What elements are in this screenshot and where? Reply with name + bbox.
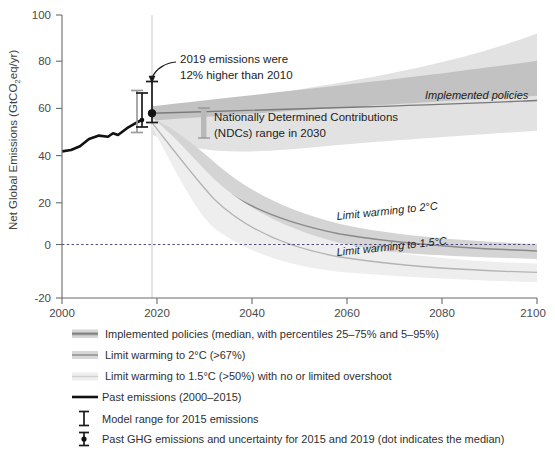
legend-label-implemented-policies: Implemented policies (median, with perce… xyxy=(105,328,439,340)
legend-item-implemented-policies: Implemented policies (median, with perce… xyxy=(72,328,439,340)
y-tick-neg20: -20 xyxy=(34,292,51,304)
emissions-chart: 100 80 60 40 20 0 -20 2000 2020 2040 206… xyxy=(0,0,555,451)
x-tick-2060: 2060 xyxy=(334,307,360,319)
x-tick-2080: 2080 xyxy=(429,307,455,319)
legend-item-limit-2c: Limit warming to 2°C (>67%) xyxy=(72,349,245,361)
band-swatch-mid-icon xyxy=(72,351,98,359)
legend-label-past-ghg: Past GHG emissions and uncertainty for 2… xyxy=(102,433,504,445)
legend-item-model-range: Model range for 2015 emissions xyxy=(79,412,259,426)
legend-label-limit-2c: Limit warming to 2°C (>67%) xyxy=(105,349,245,361)
legend-item-past-emissions: Past emissions (2000–2015) xyxy=(72,391,241,403)
y-tick-100: 100 xyxy=(32,9,51,21)
y-tick-0: 0 xyxy=(45,239,51,251)
y-tick-20: 20 xyxy=(38,197,51,209)
x-axis-ticks xyxy=(62,298,537,304)
legend-item-past-ghg: Past GHG emissions and uncertainty for 2… xyxy=(79,433,504,446)
legend-label-model-range: Model range for 2015 emissions xyxy=(102,413,259,425)
band-swatch-light-icon xyxy=(72,373,98,381)
chart-legend: Implemented policies (median, with perce… xyxy=(72,328,504,446)
band-swatch-dark-icon xyxy=(72,330,98,339)
x-tick-2020: 2020 xyxy=(144,307,170,319)
y-axis-title: Net Global Emissions (GtCO2eq/yr) xyxy=(7,50,22,230)
legend-label-past-emissions: Past emissions (2000–2015) xyxy=(102,391,241,403)
annotation-2019-line2: 12% higher than 2010 xyxy=(180,69,293,81)
annotation-ndc-line1: Nationally Determined Contributions xyxy=(214,111,398,123)
annotation-2019-line1: 2019 emissions were xyxy=(180,53,288,65)
legend-label-limit-15c: Limit warming to 1.5°C (>50%) with no or… xyxy=(105,370,392,382)
i-bar-marker-icon xyxy=(79,412,89,426)
x-tick-2000: 2000 xyxy=(49,307,75,319)
climate-emissions-figure: 100 80 60 40 20 0 -20 2000 2020 2040 206… xyxy=(0,0,555,451)
annotation-ndc-line2: (NDCs) range in 2030 xyxy=(214,127,326,139)
y-tick-60: 60 xyxy=(38,102,51,114)
y-axis-ticks xyxy=(56,15,62,298)
median-dot-2019 xyxy=(148,109,156,117)
x-tick-2100: 2100 xyxy=(520,307,546,319)
y-tick-80: 80 xyxy=(38,55,51,67)
x-tick-2040: 2040 xyxy=(239,307,265,319)
curve-label-implemented-policies: Implemented policies xyxy=(425,89,529,101)
dot-errorbar-marker-icon xyxy=(79,433,89,446)
legend-item-limit-15c: Limit warming to 1.5°C (>50%) with no or… xyxy=(72,370,392,382)
y-tick-40: 40 xyxy=(38,150,51,162)
